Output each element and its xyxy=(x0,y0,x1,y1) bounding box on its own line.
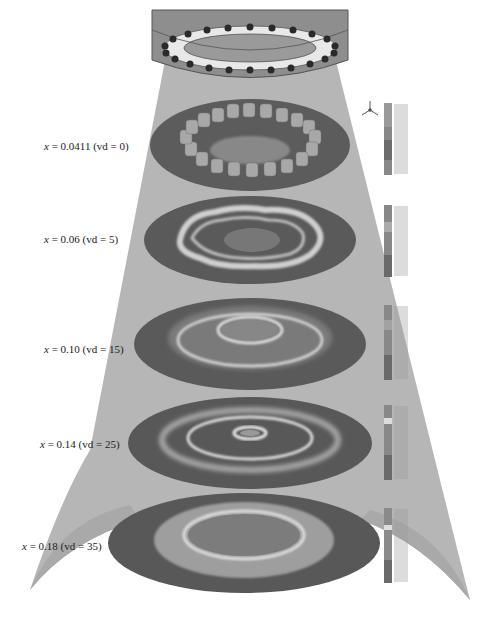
figure-canvas xyxy=(0,0,481,618)
slice-2-label: x = 0.06 (vd = 5) xyxy=(44,233,118,245)
figure: x = 0.0411 (vd = 0) x = 0.06 (vd = 5) x … xyxy=(0,0,481,618)
legend-1 xyxy=(384,103,392,175)
slice-3-contour xyxy=(134,298,366,390)
legend-2 xyxy=(384,205,392,277)
legends xyxy=(384,103,408,583)
legend-3 xyxy=(384,305,392,380)
slice-5-contour xyxy=(108,493,380,593)
nozzle xyxy=(152,10,348,78)
slice-2-contour xyxy=(144,196,356,284)
slice-4-label: x = 0.14 (vd = 25) xyxy=(40,438,120,450)
slice-5-label: x = 0.18 (vd = 35) xyxy=(22,540,102,552)
xyz-triad-icon xyxy=(362,101,378,115)
legend-5 xyxy=(384,508,392,583)
legend-4 xyxy=(384,405,392,480)
slice-4-contour xyxy=(128,397,372,489)
slice-1-label: x = 0.0411 (vd = 0) xyxy=(44,140,129,152)
slice-3-label: x = 0.10 (vd = 15) xyxy=(44,343,124,355)
slice-1-contour xyxy=(150,99,350,191)
